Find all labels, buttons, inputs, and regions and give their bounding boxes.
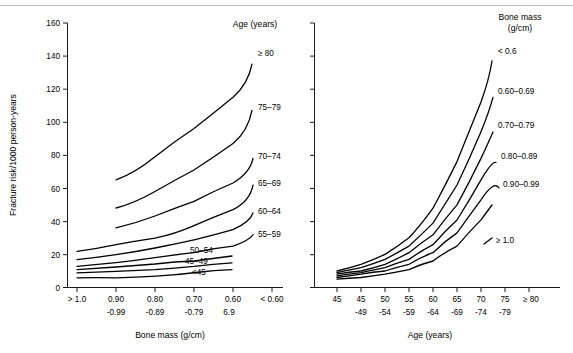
left-x-ticks xyxy=(77,288,272,293)
left-ytick-label-140: 140 xyxy=(46,52,60,61)
left-xtick-sublabel-2: -0.89 xyxy=(146,308,165,317)
right-curve-label-0.80-0.89: 0.80–0.89 xyxy=(501,152,538,161)
two-panel-line-chart: 160 140 120 100 80 60 40 20 0 Fracture r… xyxy=(0,0,573,353)
right-x-ticks xyxy=(337,288,529,293)
left-xtick-sublabel-1: -0.99 xyxy=(107,308,126,317)
left-ytick-label-120: 120 xyxy=(46,85,60,94)
left-y-axis-title: Fracture risk/1000 person-years xyxy=(8,94,18,216)
left-ytick-label-160: 160 xyxy=(46,19,60,28)
right-xtick-label-7: 70 xyxy=(476,295,486,304)
left-curve-label-ge80: ≥ 80 xyxy=(258,49,274,58)
left-xtick-label-1: > 1.0 xyxy=(68,295,87,304)
left-ytick-label-40: 40 xyxy=(51,218,61,227)
left-curve-65-69 xyxy=(77,185,253,251)
left-ytick-label-80: 80 xyxy=(51,151,61,160)
left-xtick-label-3: 0.80 xyxy=(147,295,163,304)
left-xtick-label-5: 0.60 xyxy=(225,295,241,304)
left-curve-label-60-64: 60–64 xyxy=(258,207,281,216)
right-xtick-label-1: 45 xyxy=(332,295,342,304)
left-curve-lt45 xyxy=(77,270,232,278)
left-ytick-label-0: 0 xyxy=(55,284,60,293)
left-panel: 160 140 120 100 80 60 40 20 0 Fracture r… xyxy=(8,19,284,340)
right-curve-lt0.6 xyxy=(337,61,492,271)
left-curve-label-45-49: 45–49 xyxy=(185,257,208,266)
right-curve-label-0.60-0.69: 0.60–0.69 xyxy=(498,87,535,96)
right-xtick-label-5: 60 xyxy=(428,295,438,304)
left-curve-label-75-79: 75–79 xyxy=(258,103,281,112)
right-xtick-sublabel-1: -49 xyxy=(355,308,367,317)
right-curve-label-ge1.0: ≥ 1.0 xyxy=(496,236,515,245)
right-legend-title-line1: Bone mass xyxy=(499,12,542,22)
right-xtick-label-2: 45 xyxy=(356,295,366,304)
left-xtick-label-2: 0.90 xyxy=(108,295,124,304)
right-y-ticks xyxy=(310,23,315,288)
right-xtick-label-9: ≥ 80 xyxy=(523,295,539,304)
right-curve-0.60-0.69 xyxy=(337,97,493,272)
right-xtick-sublabel-3: -59 xyxy=(403,308,415,317)
left-y-ticks xyxy=(63,23,68,288)
right-curve-label-0.90-0.99: 0.90–0.99 xyxy=(503,180,540,189)
left-ytick-label-100: 100 xyxy=(46,118,60,127)
right-xtick-label-3: 50 xyxy=(380,295,390,304)
left-curve-label-lt45: <45 xyxy=(192,268,206,277)
left-curve-ge80 xyxy=(116,64,252,180)
right-xtick-sublabel-4: -64 xyxy=(427,308,439,317)
right-xtick-label-6: 65 xyxy=(452,295,462,304)
top-divider-rule xyxy=(0,5,573,6)
left-curve-label-70-74: 70–74 xyxy=(258,152,281,161)
right-curve-0.70-0.79 xyxy=(337,132,493,274)
left-x-axis-title: Bone mass (g/cm) xyxy=(135,330,205,340)
right-xtick-sublabel-7: -79 xyxy=(499,308,511,317)
right-curve-label-0.70-0.79: 0.70–0.79 xyxy=(498,121,535,130)
figure-container: 160 140 120 100 80 60 40 20 0 Fracture r… xyxy=(0,0,573,353)
left-curve-label-55-59: 55–59 xyxy=(258,230,281,239)
left-xtick-sublabel-4: 6.9 xyxy=(223,308,235,317)
right-curve-label-lt0.6: < 0.6 xyxy=(498,47,517,56)
right-curve-0.80-0.89 xyxy=(337,162,496,276)
right-x-axis-title: Age (years) xyxy=(408,330,453,340)
right-panel: 45 45 50 55 60 65 70 75 ≥ 80 -49 -54 -59… xyxy=(310,12,560,340)
left-legend-title: Age (years) xyxy=(233,19,278,29)
right-curve-label-leader-ge1.0 xyxy=(484,238,492,244)
left-curve-label-50-54: 50–54 xyxy=(190,246,213,255)
left-curve-55-59 xyxy=(77,235,253,267)
left-curve-75-79 xyxy=(116,110,252,208)
right-xtick-sublabel-2: -54 xyxy=(379,308,391,317)
right-xtick-sublabel-6: -74 xyxy=(475,308,487,317)
left-ytick-label-20: 20 xyxy=(51,251,61,260)
left-curve-70-74 xyxy=(116,158,253,228)
left-curve-label-65-69: 65–69 xyxy=(258,179,281,188)
left-xtick-sublabel-3: -0.79 xyxy=(185,308,204,317)
right-xtick-label-4: 55 xyxy=(404,295,414,304)
right-legend-title-line2: (g/cm) xyxy=(508,23,532,33)
right-xtick-sublabel-5: -69 xyxy=(451,308,463,317)
left-ytick-label-60: 60 xyxy=(51,185,61,194)
left-xtick-label-4: 0.70 xyxy=(186,295,202,304)
right-xtick-label-8: 75 xyxy=(500,295,510,304)
left-xtick-label-6: < 0.60 xyxy=(261,295,284,304)
